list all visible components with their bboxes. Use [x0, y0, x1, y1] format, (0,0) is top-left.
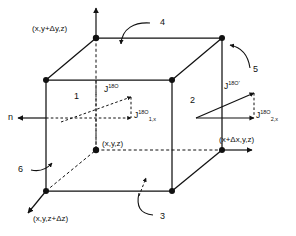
flux-label-right-component: J18O2,x [256, 111, 278, 120]
vertex-label-center: (x,y,z) [102, 140, 123, 148]
face-label-2: 2 [190, 96, 195, 105]
callout-4-arrow [121, 23, 150, 44]
flux-left-component-sub: 1,x [149, 116, 156, 122]
callout-3-arrow [138, 178, 153, 215]
callout-6-arrow [31, 163, 52, 171]
flux-right-component-sub: 2,x [271, 116, 278, 122]
face-label-6: 6 [18, 165, 23, 174]
face-label-5: 5 [253, 65, 258, 74]
flux-left-vector-sup: 18O [108, 83, 118, 89]
vertex-label-bottom-back-right: (x+Δx,y,z) [219, 136, 254, 144]
vertex-label-top-back-left: (x,y+Δy,z) [32, 25, 67, 33]
flux-right-component-sup: 18O [260, 109, 270, 115]
face-label-3: 3 [160, 212, 165, 221]
diagram-canvas: (x,y+Δy,z) (x,y,z) (x,y,z+Δz) (x+Δx,y,z)… [0, 0, 296, 236]
normal-vector-label: n [8, 113, 13, 122]
flux-right-vector-sup: 18O' [228, 80, 239, 86]
callout-5-arrow [230, 45, 250, 68]
vertex-label-bottom-front-left: (x,y,z+Δz) [33, 215, 68, 223]
flux-label-left-vector: J18O [104, 85, 119, 94]
flux-label-right-vector: J18O' [224, 82, 240, 91]
z-axis-arrow [28, 191, 46, 213]
cube-back-face [96, 38, 222, 150]
flux-left-component-sup: 18O [138, 109, 148, 115]
flux-label-left-component: J18O1,x [134, 111, 156, 120]
face-label-4: 4 [160, 18, 165, 27]
flux2-vector-line [196, 93, 254, 118]
cube-front-face [46, 80, 172, 191]
face-label-1: 1 [74, 92, 79, 101]
